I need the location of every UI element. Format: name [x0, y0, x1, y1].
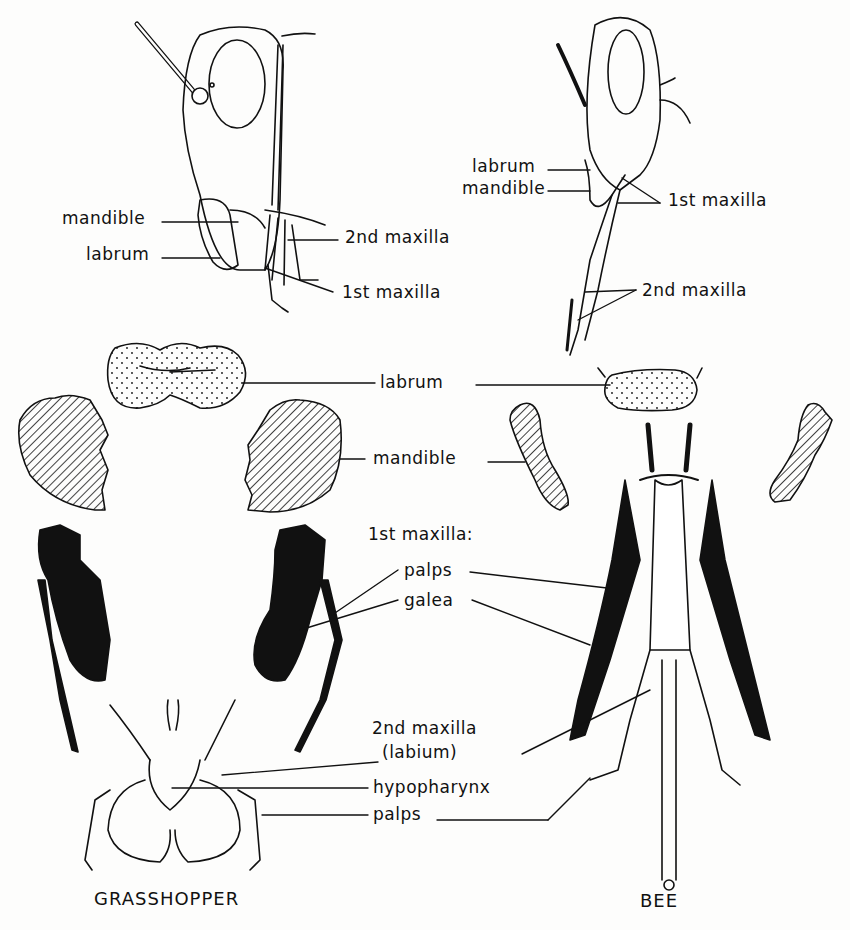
grasshopper-labium-drawing	[85, 700, 260, 870]
label-hypopharynx: hypopharynx	[373, 777, 490, 797]
label-galea: galea	[404, 590, 453, 610]
label-gh-second-maxilla: 2nd maxilla	[345, 227, 450, 247]
grasshopper-first-maxillae	[38, 525, 342, 752]
bee-head-drawing	[558, 18, 690, 355]
label-labium: (labium)	[382, 742, 457, 762]
bee-mandible-left	[510, 403, 568, 510]
label-labial-palps: palps	[373, 804, 421, 824]
label-bee-second-maxilla: 2nd maxilla	[642, 280, 747, 300]
label-mandible: mandible	[373, 448, 456, 468]
label-gh-first-maxilla: 1st maxilla	[342, 282, 441, 302]
label-labrum: labrum	[380, 372, 443, 392]
bee-labrum	[605, 370, 697, 411]
label-first-maxilla-heading: 1st maxilla:	[368, 524, 473, 544]
grasshopper-labrum	[108, 343, 246, 408]
caption-bee: BEE	[640, 890, 678, 911]
label-gh-mandible: mandible	[62, 208, 145, 228]
label-bee-mandible: mandible	[462, 178, 545, 198]
label-gh-labrum: labrum	[86, 244, 149, 264]
bee-mandible-right	[770, 404, 832, 502]
label-palps: palps	[404, 560, 452, 580]
caption-grasshopper: GRASSHOPPER	[94, 888, 239, 909]
label-bee-first-maxilla: 1st maxilla	[668, 190, 767, 210]
bee-proboscis-drawing	[570, 425, 770, 890]
label-second-maxilla: 2nd maxilla	[372, 718, 477, 738]
grasshopper-mandible-right	[245, 400, 341, 512]
grasshopper-head-drawing	[137, 24, 325, 312]
grasshopper-mandible-left	[19, 395, 108, 510]
label-bee-labrum: labrum	[472, 156, 535, 176]
